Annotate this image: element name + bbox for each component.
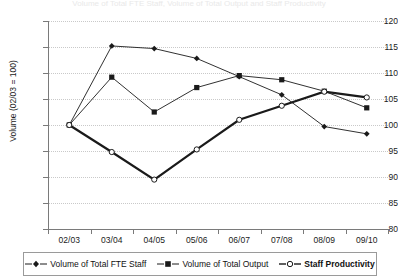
series-line bbox=[69, 92, 367, 180]
open-circle-icon bbox=[279, 259, 301, 269]
chart-container: Volume of Total FTE Staff, Volume of Tot… bbox=[0, 0, 398, 278]
diamond-marker bbox=[109, 43, 115, 49]
legend-item-staff-productivity[interactable]: Staff Productivity bbox=[279, 259, 374, 269]
series-line bbox=[69, 76, 367, 125]
series-staff-productivity bbox=[67, 89, 370, 182]
diamond-icon bbox=[25, 259, 47, 269]
open-circle-marker bbox=[194, 147, 199, 152]
diamond-marker bbox=[151, 46, 157, 52]
diamond-marker bbox=[194, 56, 200, 62]
open-circle-marker bbox=[364, 95, 369, 100]
open-circle-marker bbox=[322, 89, 327, 94]
series-layer bbox=[0, 0, 398, 278]
open-circle-marker bbox=[279, 103, 284, 108]
square-marker bbox=[237, 73, 242, 78]
legend-item-fte-staff[interactable]: Volume of Total FTE Staff bbox=[25, 259, 146, 269]
legend-label-total-output: Volume of Total Output bbox=[182, 259, 268, 269]
square-icon bbox=[157, 259, 179, 269]
square-marker bbox=[109, 75, 114, 80]
open-circle-marker bbox=[109, 149, 114, 154]
chart-legend: Volume of Total FTE Staff Volume of Tota… bbox=[23, 252, 377, 276]
square-marker bbox=[279, 77, 284, 82]
legend-label-fte-staff: Volume of Total FTE Staff bbox=[50, 259, 146, 269]
square-marker bbox=[194, 85, 199, 90]
open-circle-marker bbox=[237, 117, 242, 122]
square-marker bbox=[152, 109, 157, 114]
open-circle-marker bbox=[152, 177, 157, 182]
square-marker bbox=[364, 105, 369, 110]
legend-item-total-output[interactable]: Volume of Total Output bbox=[157, 259, 268, 269]
diamond-marker bbox=[364, 131, 370, 137]
series-volume-of-total-output bbox=[67, 73, 370, 128]
legend-label-staff-productivity: Staff Productivity bbox=[304, 259, 374, 269]
open-circle-marker bbox=[67, 122, 72, 127]
